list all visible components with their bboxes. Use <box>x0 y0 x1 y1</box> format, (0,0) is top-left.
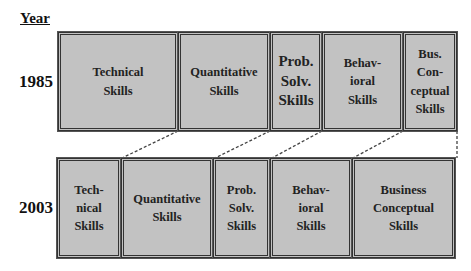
box-1985-problem-solving-skills: Prob. Solv. Skills <box>270 32 322 131</box>
box-1985-quantitative-skills: Quantitative Skills <box>178 32 270 131</box>
box-1985-business-conceptual-skills: Bus. Con- ceptual Skills <box>403 32 457 131</box>
box-1985-technical-skills: Technical Skills <box>58 32 178 131</box>
box-2003-business-conceptual-skills: Business Conceptual Skills <box>352 158 455 258</box>
box-2003-technical-skills: Tech- nical Skills <box>57 158 121 258</box>
box-1985-behavioral-skills: Behav- ioral Skills <box>322 32 403 131</box>
box-2003-behavioral-skills: Behav- ioral Skills <box>270 158 352 258</box>
box-2003-problem-solving-skills: Prob. Solv. Skills <box>213 158 270 258</box>
box-2003-quantitative-skills: Quantitative Skills <box>121 158 213 258</box>
